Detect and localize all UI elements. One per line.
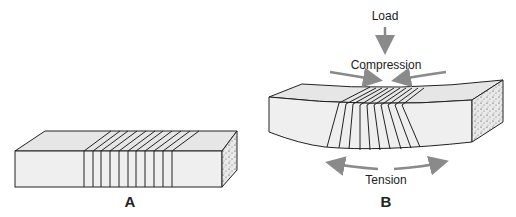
beam-a (15, 131, 237, 187)
tension-label: Tension (365, 173, 406, 187)
compression-label: Compression (351, 58, 422, 72)
tension-arrow-right-icon (394, 162, 444, 169)
panel-label-b: B (381, 193, 392, 210)
beam-b-front (269, 97, 472, 149)
beam-a-top (15, 131, 237, 151)
load-label: Load (372, 9, 399, 23)
beam-b (269, 80, 503, 150)
compression-arrow-right-icon (396, 72, 446, 80)
diagram-canvas (0, 0, 516, 217)
panel-label-a: A (125, 193, 136, 210)
compression-arrow-left-icon (330, 72, 378, 80)
tension-arrow-left-icon (330, 163, 378, 169)
